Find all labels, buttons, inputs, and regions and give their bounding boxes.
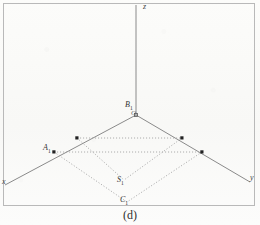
point-label-C1: C1 (120, 196, 128, 206)
figure-caption: (d) (0, 208, 260, 223)
marker-left-a1-icon (52, 150, 55, 153)
axis-line-y (136, 115, 250, 182)
point-label-S1-sub: 1 (121, 180, 124, 186)
marker-right-upper-icon (180, 136, 183, 139)
point-label-S1: S1 (117, 176, 124, 186)
point-label-A1: A1 (43, 144, 51, 154)
marker-right-lower-icon (200, 150, 203, 153)
point-label-C1-sub: 1 (125, 200, 128, 206)
figure-canvas: z x y B1 O A1 S1 C1 (d) (0, 0, 260, 225)
dotted-inner-right (124, 138, 182, 180)
dotted-inner-left (77, 138, 124, 180)
axis-label-z: z (143, 3, 146, 11)
geometry-diagram-svg (0, 0, 260, 225)
dotted-outer-right (127, 152, 202, 202)
point-label-A1-sub: 1 (48, 148, 51, 154)
marker-left-upper-icon (75, 136, 78, 139)
point-label-O: O (131, 110, 136, 117)
axis-label-y: y (250, 174, 254, 182)
axis-label-x: x (2, 178, 6, 186)
